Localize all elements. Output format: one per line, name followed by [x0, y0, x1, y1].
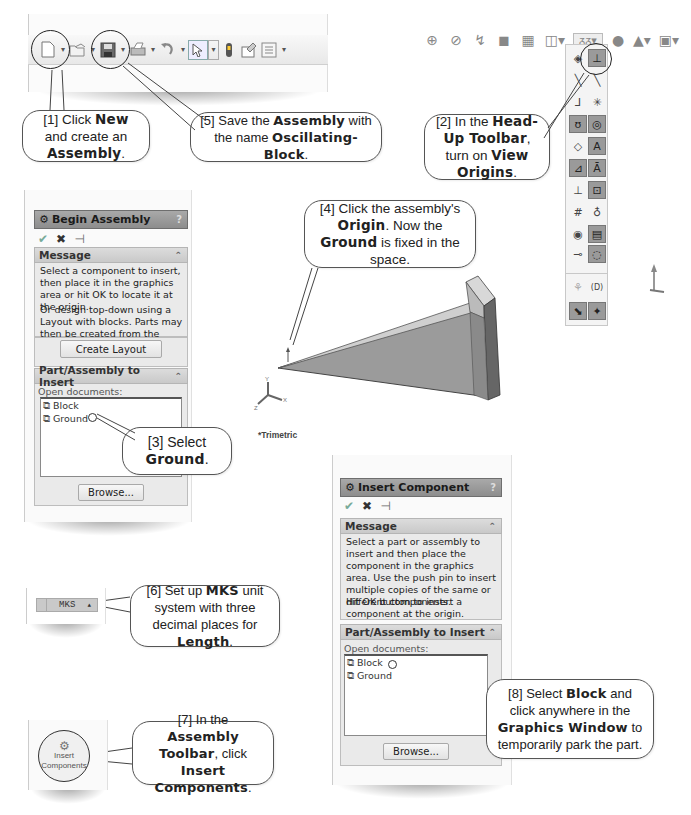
view-sketch-dimensions-icon[interactable]: ⬊	[569, 302, 587, 320]
help-icon[interactable]: ?	[176, 214, 182, 225]
create-layout-button[interactable]: Create Layout	[60, 340, 162, 358]
ok-checkmark-icon[interactable]: ✔	[38, 232, 48, 246]
list-item-block[interactable]: ⧉Block	[41, 399, 181, 412]
help-icon[interactable]: ?	[490, 482, 496, 493]
collapse-chevron-icon[interactable]: ⌃	[488, 521, 496, 531]
view-decals-icon[interactable]: ▤	[588, 225, 606, 243]
view-routing-points-icon[interactable]: ◌	[588, 245, 606, 263]
file-properties-icon[interactable]	[239, 40, 259, 60]
callout-bold: Assembly	[47, 145, 121, 161]
undo-icon[interactable]	[158, 40, 178, 60]
open-icon[interactable]	[68, 40, 88, 60]
collapse-chevron-icon[interactable]: ⌃	[488, 627, 496, 637]
previous-view-icon[interactable]: ↯	[471, 32, 489, 48]
insert-components-button[interactable]: ⚙ Insert Components	[38, 730, 90, 782]
svg-text:Z: Z	[254, 405, 258, 411]
view-grid-icon[interactable]: #	[569, 203, 587, 221]
begin-assembly-title-bar: ⚙ Begin Assembly ?	[34, 210, 188, 229]
callout-text: .	[305, 147, 309, 162]
message-header[interactable]: Message ⌃	[340, 518, 502, 534]
options-icon[interactable]	[259, 40, 279, 60]
begin-assembly-actions: ✔ ✖ ⊣	[38, 232, 85, 246]
view-annotations-icon[interactable]: A	[588, 137, 606, 155]
edit-appearance-icon[interactable]: ●	[609, 32, 627, 48]
push-pin-icon[interactable]: ⊣	[380, 499, 390, 513]
ok-checkmark-icon[interactable]: ✔	[344, 499, 354, 513]
select-icon[interactable]	[188, 40, 208, 60]
section-title: Message	[39, 249, 91, 261]
callout-text: [1] Click	[43, 112, 95, 127]
callout-step-2: [2] In the Head-Up Toolbar, turn on View…	[424, 114, 550, 180]
view-center-of-mass-icon[interactable]: ✦	[588, 302, 606, 320]
callout-bold: Assembly	[273, 113, 345, 128]
collapse-chevron-icon[interactable]: ⌃	[174, 250, 182, 260]
view-lights-icon[interactable]: ♁	[588, 203, 606, 221]
panel-shadow	[26, 522, 192, 536]
cancel-x-icon[interactable]: ✖	[362, 499, 372, 513]
doc-name: Block	[357, 657, 383, 668]
view-points-icon[interactable]: ✳	[588, 93, 606, 111]
view-settings-icon[interactable]: ▣▾	[657, 32, 681, 48]
view-dimension-names-icon[interactable]: (D)	[588, 278, 606, 296]
callout-text: [8] Select	[508, 686, 566, 701]
unit-system-dropdown[interactable]: MKS ▲	[36, 598, 98, 612]
callout-step-7: [7] In the Assembly Toolbar, click Inser…	[132, 721, 274, 785]
status-bar-shadow	[28, 624, 104, 638]
unit-system-value: MKS	[47, 600, 87, 610]
view-3d-sketches-icon[interactable]: ⊿	[569, 159, 587, 177]
message-text-2: Hit OK button to insert a component at t…	[346, 596, 498, 620]
view-curves-icon[interactable]: ʊ	[569, 115, 587, 133]
zoom-to-fit-icon[interactable]: ⊕	[423, 32, 441, 48]
view-orientation-label: *Trimetric	[258, 430, 297, 440]
insert-components-label: Insert Components	[41, 751, 87, 771]
open-documents-list[interactable]: ⧉Block ⧉Ground	[344, 654, 488, 736]
unit-dropdown-arrow-icon[interactable]: ▲	[87, 602, 91, 609]
insert-components-icon: ⚙	[59, 741, 70, 751]
message-header[interactable]: Message ⌃	[34, 247, 188, 263]
zoom-area-icon[interactable]: ⊘	[447, 32, 465, 48]
display-style-icon[interactable]: ◫▾	[543, 32, 567, 48]
view-coordinate-systems-icon[interactable]: ⅃	[569, 93, 587, 111]
svg-text:Y: Y	[265, 376, 269, 382]
list-item-ground[interactable]: ⧉Ground	[345, 669, 487, 682]
view-sketch-relations-icon[interactable]: ⊡	[588, 181, 606, 199]
panel-title: Begin Assembly	[52, 213, 151, 226]
collapse-chevron-icon[interactable]: ⌃	[174, 371, 182, 381]
options-dropdown-arrow[interactable]: ▾	[279, 45, 289, 54]
select-dropdown-arrow[interactable]: ▾	[208, 40, 219, 60]
view-live-sections-icon[interactable]: ⚘	[569, 278, 587, 296]
browse-button[interactable]: Browse...	[78, 484, 144, 501]
callout-text: .	[205, 451, 209, 467]
view-parting-lines-icon[interactable]: ◎	[588, 115, 606, 133]
insert-component-title-bar: ⚙ Insert Component ?	[340, 478, 502, 497]
print-icon[interactable]	[128, 40, 148, 60]
section-title: Part/Assembly to Insert	[345, 626, 485, 638]
list-item-block[interactable]: ⧉Block	[345, 656, 487, 669]
callout-bold: Oscillating-Block	[264, 130, 358, 162]
undo-dropdown-arrow[interactable]: ▾	[178, 45, 188, 54]
view-weld-beads-icon[interactable]: ⊸	[569, 245, 587, 263]
view-sketches-icon[interactable]: ◇	[569, 137, 587, 155]
view-orientation-icon[interactable]: ▦	[519, 32, 537, 48]
print-dropdown-arrow[interactable]: ▾	[148, 45, 158, 54]
cancel-x-icon[interactable]: ✖	[56, 232, 66, 246]
view-dimension-planes-icon[interactable]: ⊥	[569, 181, 587, 199]
part-icon: ⧉	[43, 413, 50, 425]
rebuild-icon[interactable]	[219, 40, 239, 60]
view-all-annotations-icon[interactable]: Ā	[588, 159, 606, 177]
part-assembly-header[interactable]: Part/Assembly to Insert ⌃	[34, 368, 188, 384]
part-assembly-header[interactable]: Part/Assembly to Insert ⌃	[340, 624, 502, 640]
list-item-ground[interactable]: ⧉Ground	[41, 412, 181, 425]
view-cameras-icon[interactable]: ◉	[569, 225, 587, 243]
standard-toolbar: ▾ ▾ ▾ ▾ ▾ ▾ ▾	[28, 35, 328, 65]
pointer-dot	[388, 660, 397, 669]
callout-bold: Ground	[320, 234, 377, 250]
browse-button[interactable]: Browse...	[383, 743, 449, 760]
push-pin-icon[interactable]: ⊣	[74, 232, 84, 246]
view-axes-icon[interactable]: ╲	[569, 71, 587, 89]
callout-step-4: [4] Click the assembly's Origin. Now the…	[304, 200, 476, 268]
callout-bold: Block	[566, 686, 607, 701]
section-view-icon[interactable]: ◼	[495, 32, 513, 48]
callout-step-8: [8] Select Block and click anywhere in t…	[486, 679, 654, 759]
apply-scene-icon[interactable]: ▲▾	[633, 32, 651, 48]
